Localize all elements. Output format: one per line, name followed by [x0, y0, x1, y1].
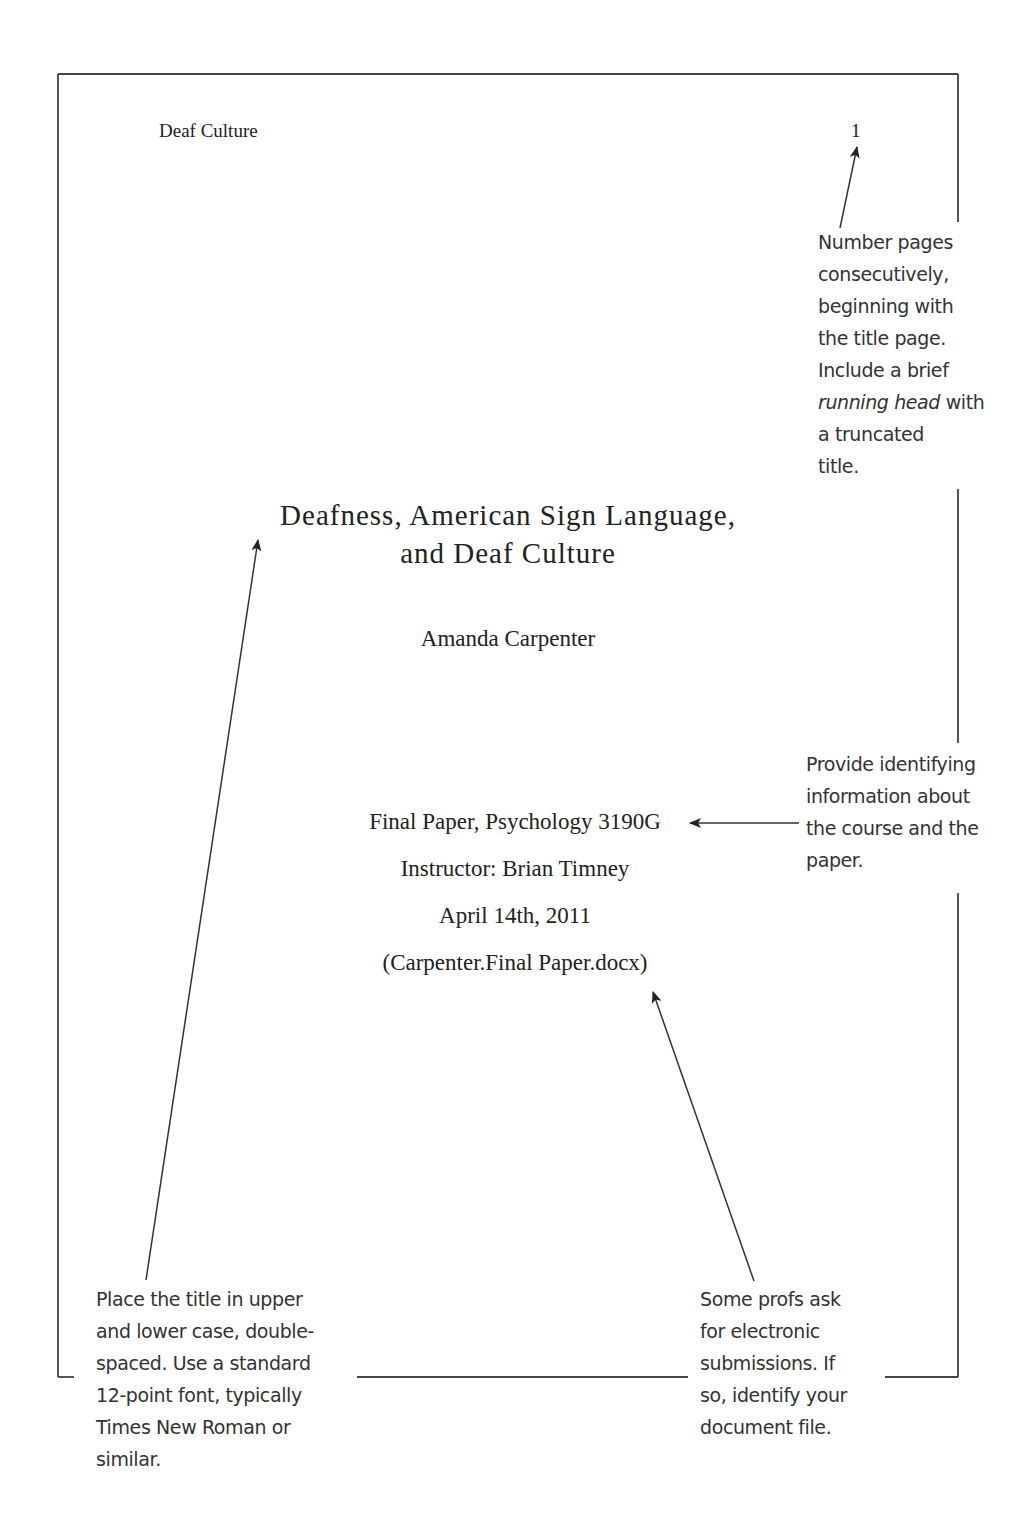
note-text: with — [940, 391, 984, 413]
note-line: submissions. If — [700, 1347, 847, 1379]
page-numbering-note: Number pages consecutively, beginning wi… — [818, 226, 984, 482]
annotated-title-page: Deaf Culture 1 Deafness, American Sign L… — [0, 0, 1036, 1535]
arrow-to-file-name — [653, 992, 754, 1281]
title-format-note: Place the title in upper and lower case,… — [96, 1283, 314, 1475]
note-line: spaced. Use a standard — [96, 1347, 314, 1379]
note-line: document file. — [700, 1411, 847, 1443]
note-line: 12-point font, typically — [96, 1379, 314, 1411]
note-line: Include a brief — [818, 354, 984, 386]
running-head: Deaf Culture — [159, 120, 258, 142]
arrow-to-page-number — [840, 147, 857, 228]
note-line: paper. — [806, 844, 979, 876]
paper-title-line-1: Deafness, American Sign Language, — [0, 497, 1016, 533]
file-name-line: (Carpenter.Final Paper.docx) — [0, 950, 1030, 976]
author-name: Amanda Carpenter — [0, 626, 1016, 652]
note-line: Provide identifying — [806, 748, 979, 780]
course-info-note: Provide identifying information about th… — [806, 748, 979, 876]
note-line: and lower case, double- — [96, 1315, 314, 1347]
note-line: consecutively, — [818, 258, 984, 290]
note-line-running-head: running head with — [818, 386, 984, 418]
note-line: beginning with — [818, 290, 984, 322]
electronic-file-note: Some profs ask for electronic submission… — [700, 1283, 847, 1443]
running-head-term: running head — [818, 391, 940, 413]
note-line: information about — [806, 780, 979, 812]
note-line: for electronic — [700, 1315, 847, 1347]
note-line: a truncated — [818, 418, 984, 450]
date-line: April 14th, 2011 — [0, 903, 1030, 929]
note-line: Some profs ask — [700, 1283, 847, 1315]
note-line: the course and the — [806, 812, 979, 844]
note-line: Number pages — [818, 226, 984, 258]
note-line: Times New Roman or — [96, 1411, 314, 1443]
note-line: Place the title in upper — [96, 1283, 314, 1315]
note-line: similar. — [96, 1443, 314, 1475]
note-line: the title page. — [818, 322, 984, 354]
page-number: 1 — [851, 120, 861, 142]
note-line: so, identify your — [700, 1379, 847, 1411]
note-line: title. — [818, 450, 984, 482]
paper-title-line-2: and Deaf Culture — [0, 535, 1016, 571]
